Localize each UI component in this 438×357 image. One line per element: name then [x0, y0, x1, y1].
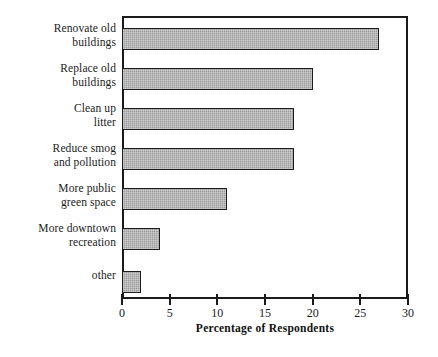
category-label-replace-old-buildings: Replace old buildings: [0, 62, 116, 89]
x-axis-title: Percentage of Respondents: [122, 322, 408, 334]
bar-reduce-smog-and-pollution: [122, 148, 294, 170]
tick-label-25: 25: [340, 306, 380, 320]
category-label-reduce-smog-and-pollution: Reduce smog and pollution: [0, 142, 116, 169]
tick-label-0: 0: [102, 306, 142, 320]
category-label-renovate-old-buildings: Renovate old buildings: [0, 22, 116, 49]
tick-label-15: 15: [245, 306, 285, 320]
tick-mark-10: [216, 294, 218, 305]
x-axis-ticks: 0 5 10 15 20 25 30: [122, 299, 408, 319]
tick-mark-5: [169, 294, 171, 305]
tick-mark-30: [407, 294, 409, 305]
tick-label-10: 10: [197, 306, 237, 320]
tick-label-5: 5: [150, 306, 190, 320]
bar-other: [122, 271, 141, 293]
tick-mark-20: [312, 294, 314, 305]
bar-more-downtown-recreation: [122, 228, 160, 250]
tick-mark-25: [359, 294, 361, 305]
category-label-other: other: [0, 269, 116, 283]
bar-renovate-old-buildings: [122, 28, 379, 50]
bar-clean-up-litter: [122, 108, 294, 130]
tick-mark-15: [264, 294, 266, 305]
bar-replace-old-buildings: [122, 68, 313, 90]
tick-label-30: 30: [388, 306, 428, 320]
category-label-more-downtown-recreation: More downtown recreation: [0, 222, 116, 249]
category-label-clean-up-litter: Clean up litter: [0, 102, 116, 129]
bars-layer: [122, 16, 408, 299]
category-axis-labels: Renovate old buildings Replace old build…: [0, 16, 116, 299]
bar-chart: Renovate old buildings Replace old build…: [0, 0, 438, 357]
tick-label-20: 20: [293, 306, 333, 320]
bar-more-public-green-space: [122, 188, 227, 210]
tick-mark-0: [121, 294, 123, 305]
category-label-more-public-green-space: More public green space: [0, 182, 116, 209]
